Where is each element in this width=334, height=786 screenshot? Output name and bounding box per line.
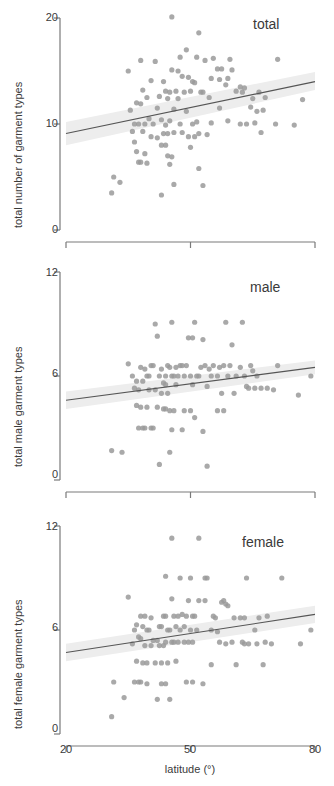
figure-root: total number of garment types 20 10 0 to… — [0, 0, 334, 786]
panel-male-ytick-6: 6 — [30, 367, 58, 379]
panel-total-ylabel: total number of garment types — [12, 82, 24, 228]
panel-total: total number of garment types 20 10 0 to… — [0, 0, 334, 262]
panel-total-ytick-20: 20 — [30, 11, 58, 23]
panel-total-ytick-0: 0 — [30, 223, 58, 235]
xaxis-label: latitude (°) — [130, 763, 250, 775]
xtick-20: 20 — [51, 743, 81, 755]
panel-female-ytick-12: 12 — [30, 520, 58, 532]
panel-female-ytick-0: 0 — [30, 722, 58, 734]
panel-total-ytick-10: 10 — [30, 117, 58, 129]
panel-female: total female garment types 12 6 0 female… — [0, 505, 334, 786]
panel-male-tag: male — [250, 279, 280, 295]
panel-male-ytick-12: 12 — [30, 266, 58, 278]
panel-female-ylabel: total female garment types — [12, 599, 24, 729]
panel-male: total male garment types 12 6 0 male — [0, 255, 334, 505]
xtick-80: 80 — [300, 743, 330, 755]
panel-female-ytick-6: 6 — [30, 621, 58, 633]
panel-female-regression-line — [66, 614, 315, 652]
panel-female-tag: female — [242, 534, 284, 550]
panel-male-regression-line — [66, 367, 315, 400]
panel-total-tag: total — [253, 16, 279, 32]
panel-male-ylabel: total male garment types — [12, 347, 24, 467]
panel-male-ytick-0: 0 — [30, 468, 58, 480]
xtick-50: 50 — [175, 743, 205, 755]
